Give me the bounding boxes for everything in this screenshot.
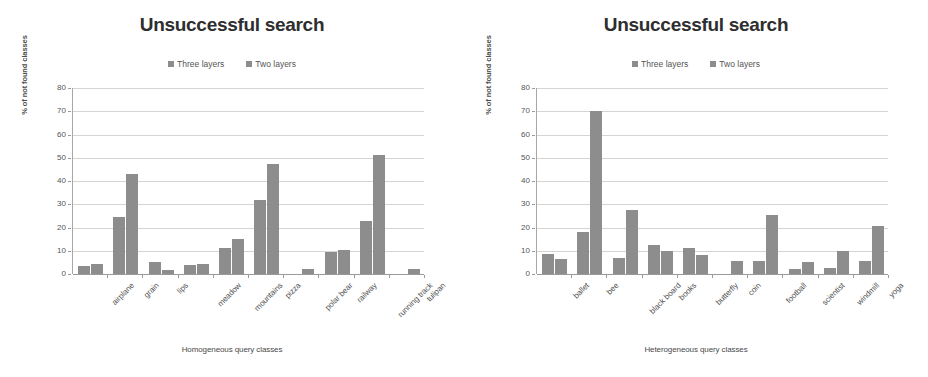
bar (661, 251, 673, 274)
y-axis-tick-mark (68, 135, 71, 136)
y-axis-tick-label: 30 (508, 199, 530, 208)
bar (408, 269, 420, 274)
bar (373, 155, 385, 274)
x-axis-tick-label: coin (746, 281, 762, 297)
bar (302, 269, 314, 274)
x-axis-tick-label: windmill (855, 281, 881, 307)
x-axis-tick-mark (571, 275, 572, 278)
bar (731, 261, 743, 274)
y-axis-tick-label: 0 (44, 269, 66, 278)
bar (197, 264, 209, 274)
x-axis-tick-label: grain (142, 281, 161, 300)
x-axis-tick-mark (248, 275, 249, 278)
bar (338, 250, 350, 274)
bar (162, 270, 174, 274)
y-axis-tick-mark (68, 181, 71, 182)
bar (626, 210, 638, 274)
y-axis-tick-label: 0 (508, 269, 530, 278)
x-axis-tick-mark (424, 275, 425, 278)
bar (802, 262, 814, 274)
bar (555, 259, 567, 274)
bar (872, 226, 884, 274)
x-axis-tick-mark (747, 275, 748, 278)
bar (219, 248, 231, 274)
x-axis-tick-mark (642, 275, 643, 278)
bar (542, 254, 554, 274)
bar (696, 255, 708, 274)
bars-layer (73, 88, 424, 274)
bar (184, 265, 196, 274)
x-axis-tick-mark (318, 275, 319, 278)
x-axis-tick-mark (782, 275, 783, 278)
x-axis-tick-label: airplane (110, 281, 136, 307)
x-axis-tick-label: meadow (216, 281, 243, 308)
x-axis-tick-mark (606, 275, 607, 278)
x-axis-tick-label: butterfly (714, 281, 740, 307)
bar (766, 215, 778, 274)
x-axis-tick-label: football (784, 281, 808, 305)
y-axis-tick-mark (532, 158, 535, 159)
x-axis-title: Heterogeneous query classes (464, 345, 928, 354)
bar (824, 268, 836, 274)
y-axis-tick-label: 20 (508, 223, 530, 232)
x-axis-tick-label: pizza (283, 281, 302, 300)
y-axis-tick-label: 20 (44, 223, 66, 232)
y-axis-tick-mark (68, 274, 71, 275)
y-axis-tick-mark (68, 204, 71, 205)
bar (753, 261, 765, 274)
x-axis-tick-mark (853, 275, 854, 278)
y-axis-tick-label: 10 (508, 246, 530, 255)
y-axis-title: % of not found classes (484, 20, 493, 130)
x-axis-tick-label: polar bear (323, 281, 354, 312)
x-axis-tick-mark (142, 275, 143, 278)
x-axis-tick-mark (354, 275, 355, 278)
y-axis-title: % of not found classes (20, 20, 29, 130)
y-axis-tick-mark (532, 111, 535, 112)
x-axis-tick-label: books (677, 281, 698, 302)
y-axis-tick-label: 70 (44, 106, 66, 115)
y-axis-tick-mark (68, 158, 71, 159)
y-axis-tick-label: 40 (508, 176, 530, 185)
y-axis-tick-label: 50 (508, 153, 530, 162)
y-axis-tick-mark (68, 111, 71, 112)
bar (149, 262, 161, 274)
bar (232, 239, 244, 274)
y-axis-tick-label: 80 (508, 83, 530, 92)
y-axis-tick-mark (68, 228, 71, 229)
x-axis-tick-mark (283, 275, 284, 278)
bar (683, 248, 695, 274)
x-axis-tick-mark (818, 275, 819, 278)
bar (577, 232, 589, 274)
bar (648, 245, 660, 274)
bar (613, 258, 625, 274)
bar (859, 261, 871, 274)
x-axis-tick-label: lips (175, 281, 190, 296)
y-axis-tick-mark (532, 204, 535, 205)
x-axis-tick-label: bee (605, 281, 621, 297)
x-axis-tick-mark (712, 275, 713, 278)
bar (126, 174, 138, 274)
x-axis-tick-label: black board (648, 281, 683, 316)
y-axis-tick-mark (532, 135, 535, 136)
bar (78, 266, 90, 274)
y-axis-tick-mark (532, 251, 535, 252)
bars-layer (537, 88, 888, 274)
bar (254, 200, 266, 274)
y-axis-tick-mark (532, 181, 535, 182)
x-axis-tick-mark (107, 275, 108, 278)
x-axis-tick-mark (888, 275, 889, 278)
plot-wrapper: % of not found classes 01020304050607080… (0, 0, 464, 377)
x-axis-tick-label: yoga (887, 281, 905, 299)
plot-area (72, 88, 424, 274)
y-axis-tick-mark (532, 88, 535, 89)
bar (360, 221, 372, 274)
bar (837, 251, 849, 274)
x-axis-tick-mark (677, 275, 678, 278)
y-axis-tick-mark (68, 88, 71, 89)
y-axis-tick-label: 80 (44, 83, 66, 92)
y-axis-tick-label: 50 (44, 153, 66, 162)
x-axis-tick-mark (389, 275, 390, 278)
chart-panel-heterogeneous: Unsuccessful search Three layers Two lay… (464, 0, 928, 377)
x-axis-tick-mark (213, 275, 214, 278)
y-axis-tick-label: 60 (508, 130, 530, 139)
